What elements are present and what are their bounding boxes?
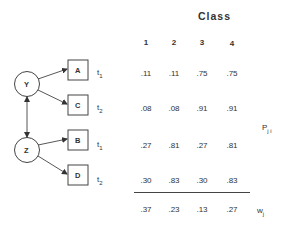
table-title: Class — [198, 10, 231, 22]
box-label-b: B — [75, 136, 80, 145]
probability-label: Pj i — [262, 123, 272, 134]
table-cell: .75 — [220, 69, 244, 78]
edge-y-a — [38, 69, 67, 79]
table-cell: .75 — [190, 69, 214, 78]
weight-cell: .37 — [134, 205, 158, 214]
time-label-c: t2 — [97, 103, 103, 114]
edge-z-d — [38, 156, 67, 174]
weight-cell: .13 — [190, 205, 214, 214]
latent-label-y: Y — [24, 80, 29, 89]
table-cell: .08 — [162, 104, 186, 113]
table-cell: .91 — [220, 104, 244, 113]
time-label-d: t2 — [97, 175, 103, 186]
box-label-d: D — [75, 171, 80, 180]
column-header: 2 — [164, 38, 184, 47]
column-header: 1 — [136, 38, 156, 47]
latent-label-z: Z — [24, 146, 29, 155]
edge-z-b — [38, 139, 67, 145]
edge-y-c — [38, 90, 67, 104]
table-cell: .91 — [190, 104, 214, 113]
column-header: 3 — [192, 38, 212, 47]
divider-line — [134, 192, 250, 193]
box-label-a: A — [75, 66, 80, 75]
time-label-a: t1 — [97, 68, 103, 79]
weight-cell: .23 — [162, 205, 186, 214]
table-cell: .30 — [190, 176, 214, 185]
table-cell: .81 — [162, 141, 186, 150]
weight-label: wj — [257, 206, 264, 217]
table-cell: .27 — [190, 141, 214, 150]
table-cell: .83 — [162, 176, 186, 185]
column-header: 4 — [222, 39, 242, 48]
table-cell: .11 — [134, 69, 158, 78]
table-cell: .83 — [220, 176, 244, 185]
table-cell: .27 — [134, 141, 158, 150]
table-cell: .81 — [220, 141, 244, 150]
time-label-b: t1 — [97, 140, 103, 151]
box-label-c: C — [75, 101, 80, 110]
table-cell: .11 — [162, 69, 186, 78]
table-cell: .30 — [134, 176, 158, 185]
weight-cell: .27 — [220, 205, 244, 214]
path-diagram — [0, 0, 292, 228]
table-cell: .08 — [134, 104, 158, 113]
